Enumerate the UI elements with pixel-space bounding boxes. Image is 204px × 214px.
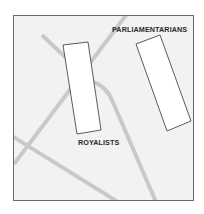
battle-map: PARLIAMENTARIANS ROYALISTS bbox=[0, 0, 204, 214]
parliamentarians-label: PARLIAMENTARIANS bbox=[112, 25, 187, 34]
royalists-label: ROYALISTS bbox=[78, 138, 119, 147]
